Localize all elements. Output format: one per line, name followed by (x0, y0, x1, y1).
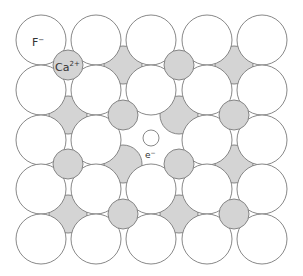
calcium-ion (53, 149, 83, 179)
electron-label: e− (145, 149, 156, 160)
calcium-ion (108, 100, 138, 130)
calcium-ion (219, 100, 249, 130)
electron-circle (143, 130, 159, 146)
calcium-ion (108, 199, 138, 229)
calcium-ion (164, 50, 194, 80)
fluoride-ion (16, 214, 66, 264)
fluoride-ion (237, 15, 287, 65)
lattice-svg: F− Ca2+ e− (0, 0, 303, 276)
fluorite-lattice-diagram: F− Ca2+ e− (0, 0, 303, 276)
electron-trapped (143, 130, 159, 146)
calcium-ion (219, 199, 249, 229)
calcium-ion (164, 149, 194, 179)
